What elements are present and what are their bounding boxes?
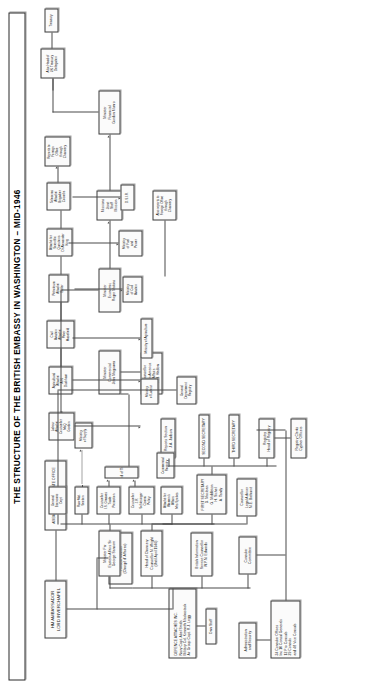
node-also-reports-foreign-office[interactable]: Also reports to Foreign Office through C…	[152, 190, 176, 220]
node-line: and 48 Vice Consuls	[292, 623, 296, 655]
node-attache-womens-affairs[interactable]: Attaché for Women's Affairs Mrs Spokes	[160, 486, 182, 514]
node-line: Coombs	[62, 190, 66, 201]
connector	[109, 587, 132, 588]
node-line: A. Tandy	[218, 487, 222, 501]
node-telecoms-attache[interactable]: Telecoms Attaché Brigadier Coombs	[46, 182, 70, 210]
node-line: Delegation	[54, 56, 58, 71]
connector	[132, 587, 250, 588]
node-registry-clerks[interactable]: Registry Clerks Cypher Officers	[290, 418, 306, 458]
connector	[211, 466, 212, 474]
node-line: Gordon Munro	[111, 101, 115, 123]
connector	[266, 458, 267, 466]
connector	[196, 625, 205, 626]
node-registry-head[interactable]: Registry Head of Registry	[258, 418, 274, 458]
node-general-department-registry[interactable]: General Department Registry	[176, 376, 196, 404]
node-ambassador[interactable]: HM AMBASSADOR LORD INVERCHAPEL	[44, 580, 66, 638]
node-minister-economic[interactable]: Minister Economic Roger Makins	[98, 268, 120, 312]
connector-arrow	[118, 197, 120, 199]
node-line: Board of Trade	[119, 466, 123, 478]
node-line: DEFENCE ATTACHÉS INC.	[173, 612, 177, 655]
node-raw-materials-section[interactable]: Raw Mat. Section	[74, 486, 88, 514]
node-own-staff[interactable]: Own Staff	[205, 608, 216, 644]
connector	[109, 220, 110, 268]
node-line: Mission	[113, 199, 117, 211]
page-title: THE STRUCTURE OF THE BRITISH EMBASSY IN …	[8, 12, 25, 680]
node-missions-joint-staff[interactable]: Missions Joint Staff Mission	[96, 190, 122, 220]
node-legal-adviser[interactable]: Counsellor Legal Adviser M.E. Bathurst	[236, 478, 256, 516]
connector	[285, 430, 286, 600]
node-line: British Information	[194, 540, 198, 568]
org-chart-canvas: THE STRUCTURE OF THE BRITISH EMBASSY IN …	[0, 0, 383, 694]
node-second-secretary[interactable]: SECOND SECRETARY	[198, 414, 209, 458]
connector	[120, 371, 140, 372]
node-line: Administration	[243, 629, 247, 651]
node-line: 29 Consuls	[287, 638, 291, 655]
node-line: Registry Clerks	[294, 426, 298, 450]
node-third-secretary[interactable]: THIRD SECRETARY	[228, 414, 239, 458]
connector	[109, 576, 110, 588]
node-minister-commercial[interactable]: Minister Commercial John Magowan	[98, 350, 120, 394]
node-consular-committee[interactable]: Consular Committee	[238, 536, 256, 574]
connector	[171, 514, 172, 524]
node-administration-security[interactable]: Administration and Security	[238, 622, 256, 658]
connector	[168, 465, 276, 466]
connector	[81, 514, 82, 524]
node-petroleum-attache[interactable]: Petroleum Attaché Butler	[48, 274, 68, 302]
node-british-information-service[interactable]: British Information Service Counsellor W…	[190, 532, 212, 576]
connector-arrow	[106, 479, 108, 481]
node-uk-treasury-delegation[interactable]: Also Head of UK Treasury Delegation	[40, 48, 64, 78]
connector	[233, 458, 234, 466]
connector	[108, 514, 109, 524]
node-minister-far-eastern-affairs[interactable]: Minister Far Eastern Affairs Sir George …	[98, 530, 120, 576]
node-counsellor-comm-policy[interactable]: Counsellor J.R. Schlesinger Comm. Policy	[128, 486, 154, 514]
node-ministry-of-agriculture[interactable]: Ministry of Agriculture	[140, 318, 152, 358]
connector	[151, 524, 152, 530]
connector	[55, 530, 56, 580]
node-consular-offices[interactable]: 34 Consular Offices Inc 10 Consul Genera…	[270, 600, 300, 658]
connector	[256, 554, 285, 555]
node-first-secretary[interactable]: FIRST SECRETARY D. Maclean G. Middleton …	[196, 474, 226, 514]
connector	[60, 523, 172, 524]
node-labour-attache[interactable]: Labour Attaché Counsellor McQ Gordon	[48, 412, 74, 440]
node-line: M.E. Bathurst	[248, 486, 252, 507]
connector	[168, 458, 169, 466]
node-line: W.P.N. Edwards	[203, 542, 207, 567]
connector-arrow	[116, 243, 118, 245]
node-line: Power	[134, 239, 138, 248]
node-line: Dept	[59, 497, 63, 504]
node-minister-financial[interactable]: Minister Financial Gordon Munro	[98, 90, 120, 134]
node-line: Own Staff	[208, 618, 212, 633]
node-line: Committee	[247, 547, 251, 564]
node-counsellor-trade-promotion[interactable]: Counsellor I.S. Greaves Trade Promotion	[96, 486, 120, 514]
node-treasury[interactable]: Treasury	[44, 8, 58, 32]
node-general-economic-dept[interactable]: General Economic Dept	[48, 486, 66, 514]
connector	[57, 389, 176, 390]
node-ministry-of-labour[interactable]: Ministry of Labour	[140, 378, 158, 404]
node-line: J.A. Judson	[168, 429, 172, 447]
connector	[141, 514, 142, 524]
connector	[60, 302, 61, 320]
node-head-of-chancery[interactable]: Head of Chancery Counsellor M. Wright (U…	[140, 530, 162, 576]
node-line: Gordon	[67, 421, 71, 431]
node-line: SECOND SECRETARY	[201, 418, 205, 455]
node-ministry-of-civil-aviation[interactable]: Ministry of Civil Aviation	[122, 276, 142, 302]
node-line: Head of Chancery	[144, 539, 148, 567]
node-dsir[interactable]: D.S.I.R.	[120, 184, 134, 210]
node-reports-to-foreign-office[interactable]: Reports to Foreign Office through Chance…	[44, 136, 70, 166]
connector-arrow	[132, 479, 134, 481]
connector	[68, 242, 118, 243]
node-line: Legal Adviser	[244, 487, 248, 508]
connector	[60, 256, 61, 274]
connector	[60, 411, 62, 412]
node-ministry-of-fuel-and-power[interactable]: Ministry of Fuel and Power	[118, 230, 142, 256]
node-line: LORD INVERCHAPEL	[55, 587, 61, 630]
connector	[57, 390, 58, 486]
node-line: Minister Far	[102, 544, 106, 563]
node-board-of-trade[interactable]: Board of Trade	[104, 466, 138, 478]
node-line: Eastern Affairs Sir	[107, 539, 111, 567]
node-line: Navy Capt. Abel Smith	[178, 620, 182, 655]
node-line: Roger Makins	[111, 279, 115, 301]
connector	[247, 574, 248, 588]
node-line: Cypher Officers	[298, 426, 302, 450]
connector	[172, 588, 173, 609]
